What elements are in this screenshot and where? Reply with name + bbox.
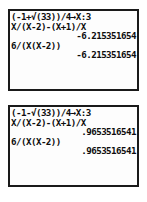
bottom-line-1: (-1-√(33))/4→X:3 [11,108,137,118]
calculator-screens-container: (-1+√(33))/4→X:3 X/(X-2)-(X+1)/X -6.2153… [0,0,147,202]
top-line-7 [11,70,137,80]
bottom-line-4: 6/(X(X-2)) [11,137,137,147]
top-lcd-display: (-1+√(33))/4→X:3 X/(X-2)-(X+1)/X -6.2153… [10,11,137,89]
bottom-line-6 [11,156,137,166]
bottom-line-3-result: .9653516541 [11,127,137,137]
bottom-calculator-screen: (-1-√(33))/4→X:3 X/(X-2)-(X+1)/X .965351… [8,105,139,187]
bottom-line-7 [11,166,137,176]
bottom-line-8 [11,175,137,185]
top-line-6 [11,60,137,70]
bottom-line-5-result: .9653516541 [11,146,137,156]
top-line-4: 6/(X(X-2)) [11,41,137,51]
top-line-2: X/(X-2)-(X+1)/X [11,22,137,32]
top-line-5-result: -6.215351654 [11,50,137,60]
bottom-lcd-display: (-1-√(33))/4→X:3 X/(X-2)-(X+1)/X .965351… [10,107,137,185]
top-calculator-screen: (-1+√(33))/4→X:3 X/(X-2)-(X+1)/X -6.2153… [8,9,139,91]
top-line-1: (-1+√(33))/4→X:3 [11,12,137,22]
top-line-3-result: -6.215351654 [11,31,137,41]
bottom-line-2: X/(X-2)-(X+1)/X [11,118,137,128]
top-line-8 [11,79,137,89]
